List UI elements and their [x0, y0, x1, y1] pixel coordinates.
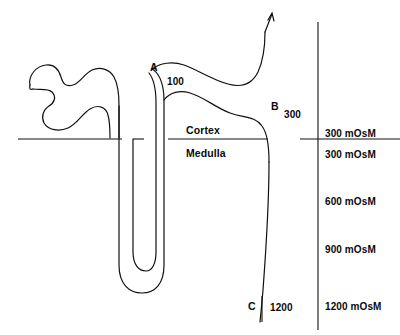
scale-tick-label-300-medulla: 300 mOsM: [325, 150, 376, 160]
loop-of-henle-inner-wall: [133, 73, 156, 271]
proximal-convoluted-tubule-outer-wall: [30, 65, 119, 138]
scale-tick-label-1200: 1200 mOsM: [325, 302, 382, 312]
collecting-duct: [260, 162, 269, 322]
scale-tick-label-900: 900 mOsM: [325, 245, 376, 255]
region-label-medulla: Medulla: [186, 148, 226, 159]
loop-of-henle-outer-wall: [119, 69, 164, 293]
scale-tick-label-600: 600 mOsM: [325, 197, 376, 207]
proximal-convoluted-tubule-inner-wall: [33, 89, 110, 138]
point-value-a: 100: [167, 77, 184, 87]
point-label-a: A: [150, 62, 158, 73]
point-value-b: 300: [284, 110, 301, 120]
nephron-diagram: [0, 0, 400, 335]
point-label-b: B: [271, 101, 279, 112]
region-label-cortex: Cortex: [186, 125, 220, 136]
point-value-c: 1200: [270, 303, 293, 313]
scale-tick-label-300-cortex: 300 mOsM: [325, 129, 376, 139]
point-label-c: C: [248, 301, 256, 312]
proximal-convoluted-tubule-left-hook: [30, 85, 33, 89]
efferent-flow-arrow-shaft: [265, 14, 272, 32]
